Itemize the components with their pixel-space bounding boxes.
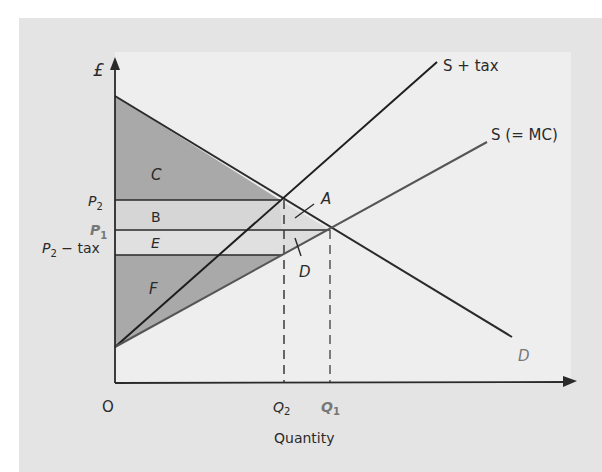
p2-minus-tax-label: P2 − tax xyxy=(42,240,100,259)
q1-label: Q1 xyxy=(321,399,340,417)
p1-label: P1 xyxy=(90,222,107,241)
x-axis-label: Quantity xyxy=(274,430,335,446)
y-axis-label: £ xyxy=(93,60,104,80)
q2-subscript: 2 xyxy=(284,406,290,417)
supply-label-text: S (= MC) xyxy=(491,126,558,144)
area-e xyxy=(115,230,282,255)
supply-label: S (= MC) xyxy=(491,126,558,144)
area-e-label: E xyxy=(151,235,160,251)
area-a-label: A xyxy=(320,190,331,208)
origin-label: O xyxy=(102,398,114,416)
p2-subscript: 2 xyxy=(96,201,102,212)
area-b-label: B xyxy=(151,209,161,225)
x-axis-arrow-icon xyxy=(563,376,577,387)
y-axis-arrow-icon xyxy=(110,57,120,70)
area-b xyxy=(115,200,282,230)
area-d-label: D xyxy=(299,263,311,281)
q1-subscript: 1 xyxy=(333,406,340,417)
p2-tax-suffix: − tax xyxy=(57,240,100,256)
q2-label: Q2 xyxy=(273,399,290,417)
p2-label: P2 xyxy=(88,193,103,212)
area-f-label: F xyxy=(149,280,158,298)
x-axis xyxy=(115,382,568,383)
q2-letter: Q xyxy=(273,399,284,415)
demand-label: D xyxy=(518,347,530,365)
supply-plus-tax-label: S + tax xyxy=(443,57,499,75)
p1-subscript: 1 xyxy=(100,230,107,241)
q1-letter: Q xyxy=(321,399,333,415)
tax-welfare-diagram: £ O Quantity S + tax S (= MC) D P2 P1 P2… xyxy=(0,0,602,472)
area-c-label: C xyxy=(151,166,162,184)
